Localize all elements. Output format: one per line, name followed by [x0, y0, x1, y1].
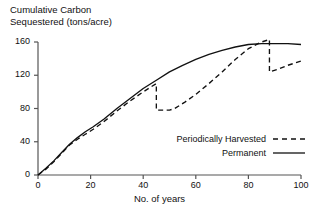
y-tick-label: 40	[4, 136, 30, 146]
y-tick-label: 160	[4, 36, 30, 46]
x-axis-title: No. of years	[0, 193, 319, 205]
x-tick-label: 80	[233, 180, 263, 190]
y-tick-label: 120	[4, 69, 30, 79]
x-tick-label: 20	[76, 180, 106, 190]
carbon-sequestration-chart: Cumulative Carbon Sequestered (tons/acre…	[0, 0, 319, 213]
legend-entry-permanent: Permanent	[150, 148, 306, 158]
y-tick-label: 0	[4, 169, 30, 179]
legend-label-periodically-harvested: Periodically Harvested	[176, 134, 266, 144]
x-axis-ticks	[38, 175, 301, 179]
legend-label-permanent: Permanent	[222, 148, 266, 158]
legend-sample-dashed	[272, 135, 306, 143]
legend-sample-solid	[272, 149, 306, 157]
x-tick-label: 100	[286, 180, 316, 190]
y-tick-label: 80	[4, 103, 30, 113]
x-tick-label: 60	[181, 180, 211, 190]
x-tick-label: 40	[128, 180, 158, 190]
x-tick-label: 0	[23, 180, 53, 190]
legend-entry-periodically-harvested: Periodically Harvested	[150, 134, 306, 144]
